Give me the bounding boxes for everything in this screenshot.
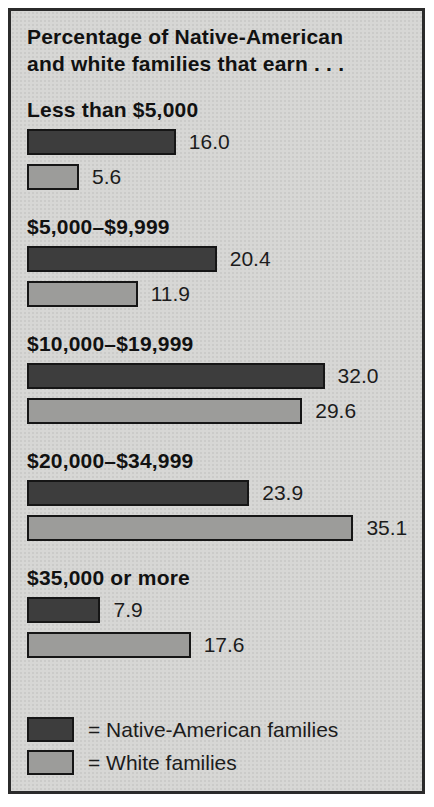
bar-row: 17.6 — [27, 632, 414, 658]
white-swatch-icon — [27, 750, 74, 775]
bar-value-label: 23.9 — [262, 481, 303, 505]
bar-row: 32.0 — [27, 363, 414, 389]
bar-white — [27, 281, 138, 307]
bar-native-american — [27, 129, 176, 155]
bar-row: 23.9 — [27, 480, 414, 506]
bar-group: $5,000–$9,99920.411.9 — [27, 215, 414, 307]
bar-white — [27, 515, 353, 541]
bar-row: 35.1 — [27, 515, 414, 541]
legend-item-white: = White families — [27, 750, 414, 775]
bar-value-label: 11.9 — [151, 282, 190, 306]
bar-group: $35,000 or more7.917.6 — [27, 566, 414, 658]
category-label: $5,000–$9,999 — [27, 215, 414, 239]
legend: = Native-American families = White famil… — [27, 709, 414, 779]
native-american-swatch-icon — [27, 717, 74, 742]
chart-title-line2: and white families that earn . . . — [27, 51, 414, 78]
bar-value-label: 35.1 — [366, 516, 407, 540]
category-label: $10,000–$19,999 — [27, 332, 414, 356]
legend-label: = Native-American families — [88, 718, 338, 742]
bar-value-label: 32.0 — [338, 364, 379, 388]
bar-value-label: 5.6 — [92, 165, 121, 189]
bar-group: $20,000–$34,99923.935.1 — [27, 449, 414, 541]
chart-title-line1: Percentage of Native-American — [27, 24, 414, 51]
bar-value-label: 7.9 — [113, 598, 142, 622]
legend-item-native-american: = Native-American families — [27, 717, 414, 742]
bar-native-american — [27, 363, 325, 389]
bar-white — [27, 164, 79, 190]
bar-value-label: 29.6 — [315, 399, 356, 423]
bar-row: 11.9 — [27, 281, 414, 307]
legend-label: = White families — [88, 751, 237, 775]
category-label: $35,000 or more — [27, 566, 414, 590]
bar-row: 16.0 — [27, 129, 414, 155]
bar-groups: Less than $5,00016.05.6$5,000–$9,99920.4… — [27, 98, 414, 683]
bar-row: 7.9 — [27, 597, 414, 623]
bar-group: Less than $5,00016.05.6 — [27, 98, 414, 190]
chart-panel: Percentage of Native-American and white … — [8, 8, 425, 794]
bar-row: 5.6 — [27, 164, 414, 190]
chart-title: Percentage of Native-American and white … — [27, 24, 414, 78]
bar-value-label: 20.4 — [230, 247, 271, 271]
bar-row: 29.6 — [27, 398, 414, 424]
bar-value-label: 16.0 — [189, 130, 230, 154]
bar-row: 20.4 — [27, 246, 414, 272]
bar-white — [27, 398, 302, 424]
bar-native-american — [27, 597, 100, 623]
bar-native-american — [27, 480, 249, 506]
bar-value-label: 17.6 — [204, 633, 245, 657]
category-label: $20,000–$34,999 — [27, 449, 414, 473]
bar-white — [27, 632, 191, 658]
bar-native-american — [27, 246, 217, 272]
bar-group: $10,000–$19,99932.029.6 — [27, 332, 414, 424]
category-label: Less than $5,000 — [27, 98, 414, 122]
